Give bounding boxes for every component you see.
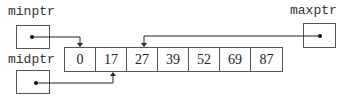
- minptr-arrow: [32, 37, 80, 45]
- pointer-array-diagram: minptr midptr maxptr 0 17 27 39 52 69 87: [0, 0, 348, 101]
- arrowhead-icon: [110, 72, 116, 76]
- midptr-arrow: [36, 74, 113, 83]
- arrowhead-icon: [77, 43, 83, 47]
- arrowhead-icon: [141, 43, 147, 47]
- arrows-layer: [0, 0, 348, 101]
- maxptr-arrow: [144, 36, 320, 45]
